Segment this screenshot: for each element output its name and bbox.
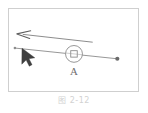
pivot-label: A: [70, 65, 78, 77]
mechanics-diagram: A: [9, 9, 138, 91]
cursor-pointer-icon: [22, 48, 35, 66]
right-endpoint-dot: [115, 57, 119, 61]
left-endpoint-dot: [14, 47, 17, 50]
figure-caption: 图 2-12: [0, 96, 148, 106]
force-arrow-shaft: [23, 34, 93, 42]
figure-container: A 图 2-12: [0, 0, 148, 113]
figure-frame: A: [8, 8, 139, 92]
